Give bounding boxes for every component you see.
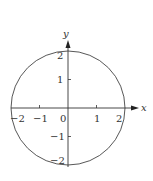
- y-tick-label-pos2: 2: [57, 50, 63, 61]
- y-tick-label-neg2: −2: [50, 155, 65, 166]
- y-tick-label-pos1: 1: [57, 74, 63, 85]
- y-axis-arrow-icon: [66, 40, 71, 48]
- x-tick-label-pos2: 2: [116, 113, 122, 124]
- x-tick-label-neg2: −2: [10, 113, 25, 124]
- origin-label: 0: [60, 113, 66, 124]
- x-tick-label-neg1: −1: [33, 113, 48, 124]
- y-axis-label: y: [62, 28, 69, 39]
- x-tick-label-pos1: 1: [94, 113, 100, 124]
- x-axis-arrow-icon: [131, 106, 139, 111]
- y-tick-label-neg1: −1: [50, 131, 65, 142]
- x-axis-label: x: [141, 102, 147, 113]
- coordinate-diagram: x y −2 −1 0 1 2 2 1 −1 −2: [0, 0, 153, 181]
